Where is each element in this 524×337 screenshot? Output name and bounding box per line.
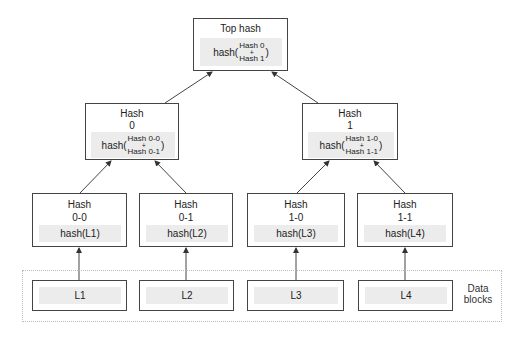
data-block-l3: L3: [247, 280, 344, 311]
edge-h00-h0: [80, 161, 111, 193]
hash-1-0-node: Hash 1-0 hash(L3): [247, 193, 345, 247]
hash-0-0-node: Hash 0-0 hash(L1): [32, 193, 127, 247]
data-block-l1: L1: [32, 280, 127, 311]
edge-hash1-top: [272, 72, 318, 103]
hash-1-1-node: Hash 1-1 hash(L4): [357, 193, 453, 247]
data-block-l2: L2: [139, 280, 234, 311]
top-hash-node: Top hash hash( Hash 0 + Hash 1 ): [193, 18, 288, 71]
hash-0-formula: hash( Hash 0-0 + Hash 0-1 ): [91, 132, 175, 158]
edge-hash0-top: [165, 72, 212, 103]
hash-1-node: Hash 1 hash( Hash 1-0 + Hash 1-1 ): [302, 103, 398, 160]
hash-0-node: Hash 0 hash( Hash 0-0 + Hash 0-1 ): [85, 103, 179, 160]
hash-1-formula: hash( Hash 1-0 + Hash 1-1 ): [308, 132, 394, 158]
edge-h10-h1: [297, 161, 329, 193]
data-blocks-label-line2: blocks: [460, 294, 496, 306]
top-hash-title: Top hash: [194, 23, 287, 35]
data-block-l4: L4: [358, 280, 453, 311]
hash-0-1-node: Hash 0-1 hash(L2): [139, 193, 233, 247]
top-hash-formula: hash( Hash 0 + Hash 1 ): [200, 38, 282, 66]
edge-h11-h1: [374, 161, 405, 193]
edge-h01-h0: [155, 161, 186, 193]
